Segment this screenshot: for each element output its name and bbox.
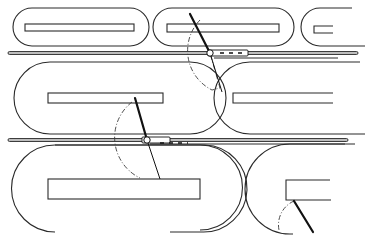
rail-bar [8,139,348,142]
arm-lower-right [294,201,313,232]
bed-top-right [301,8,365,46]
bed-bottom-right [245,144,355,234]
slot-bottom-left [48,179,200,199]
arm-link-middle [147,140,160,179]
slot-middle-right [233,93,333,103]
arm-upper [190,14,210,53]
diagram-canvas [0,0,368,240]
bottom-row [12,144,356,234]
rail-bar [8,52,358,55]
slot-top-middle [167,24,279,32]
slot-top-left [25,24,134,31]
slot-bottom-right [286,180,331,200]
bed-middle-right [214,62,365,134]
middle-row [14,62,365,134]
pivot-middle [144,137,150,143]
slot-middle-left [48,93,163,103]
pivot-upper [207,50,213,56]
lower-right-arm-assembly [278,201,313,232]
sweep-arc-lower [278,201,294,230]
upper-rail [8,52,358,59]
slot-top-right [314,26,333,33]
